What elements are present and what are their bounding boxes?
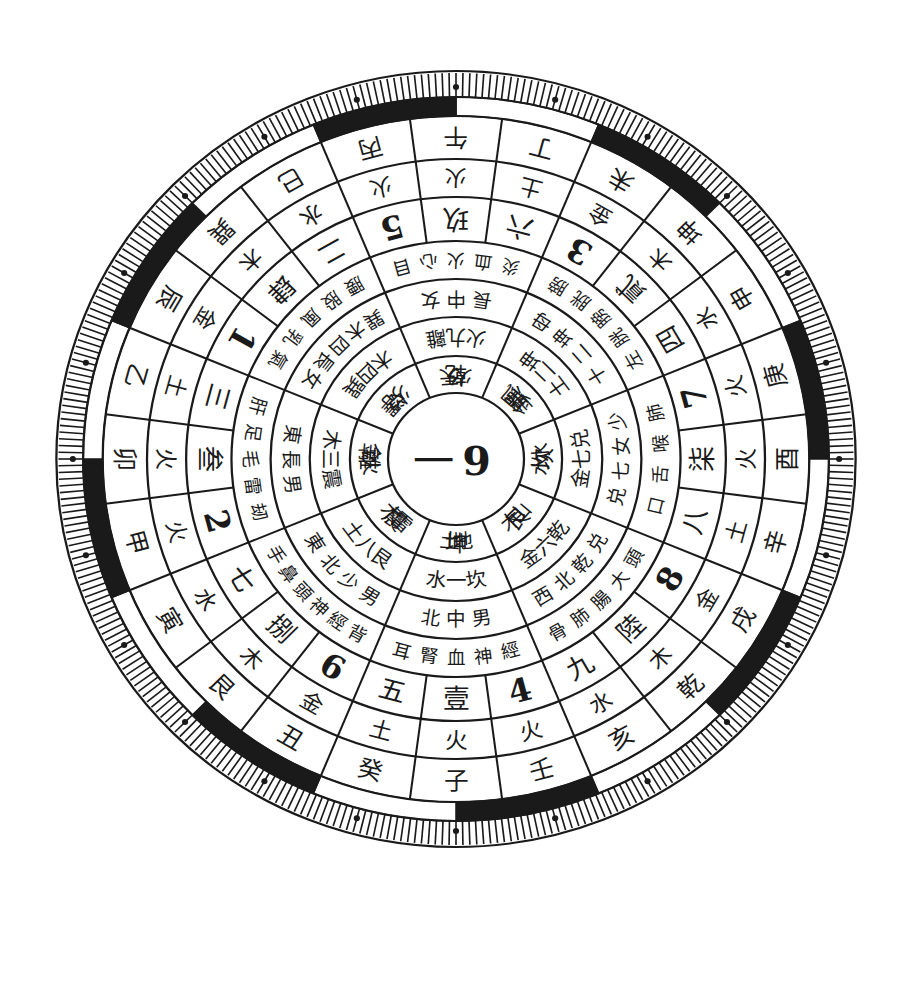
center-right-number: 9 (462, 437, 491, 484)
ring-glyph: 膀 (544, 273, 570, 300)
ring-glyph: 金 (188, 303, 222, 335)
ring-glyph: 腰 (341, 273, 367, 300)
ring-glyph: 水 (584, 686, 617, 719)
ring-glyph: 九 (561, 648, 599, 686)
ring-glyph: 4 (504, 670, 536, 712)
ring-glyph: 血 (473, 250, 494, 273)
ring-glyph: 金 (584, 199, 617, 232)
ring-glyph: 火 (464, 325, 488, 351)
ring-glyph: 乾 (671, 668, 709, 705)
ring-glyph: 金 (295, 686, 328, 719)
ring-glyph: 足 (241, 422, 265, 442)
ring-glyph: 離 (356, 448, 382, 470)
ring-glyph: 酉 (772, 447, 801, 471)
ring-glyph: 坤 (445, 531, 467, 557)
ring-glyph: 神 (473, 645, 494, 668)
ring-glyph: 木 (234, 641, 268, 674)
ring-glyph: 膀 (587, 305, 615, 332)
ring-glyph: 四 (650, 321, 690, 358)
ring-glyph: 男 (471, 605, 494, 630)
ring-glyph: 坤 (549, 322, 579, 351)
ring-glyph: 男 (279, 473, 305, 495)
ring-glyph: 長 (279, 450, 302, 469)
ring-glyph: 火 (153, 448, 179, 470)
ring-glyph: 申 (724, 281, 762, 316)
ring-glyph: 二 (567, 340, 597, 369)
ring-glyph: 貳 (611, 270, 651, 309)
ring-glyph: 甲 (119, 527, 154, 557)
ring-glyph: 未 (604, 162, 640, 199)
ring-glyph: 目 (390, 255, 413, 280)
ring-glyph: 木 (318, 428, 345, 451)
ring-glyph: 辛 (758, 527, 793, 557)
ring-glyph: 肺 (567, 604, 594, 631)
ring-glyph: 巽 (203, 213, 241, 250)
ring-glyph: 7 (673, 381, 716, 412)
ring-glyph: 土 (720, 518, 751, 546)
ring-glyph: 少 (604, 410, 631, 433)
ring-glyph: 乾 (445, 362, 467, 388)
ring-glyph: 一 (446, 570, 466, 594)
ring-glyph: 震 (318, 467, 345, 490)
ring-glyph: 木 (643, 244, 677, 277)
ring-glyph: 東 (300, 529, 330, 557)
ring-glyph: 坤 (671, 213, 709, 250)
ring-glyph: 兑 (604, 485, 631, 508)
ring-glyph: 七 (609, 461, 634, 481)
ring-glyph: 骨 (544, 618, 570, 645)
ring-glyph: 5 (376, 206, 408, 248)
ring-glyph: 戌 (724, 602, 762, 637)
ring-glyph: 火 (720, 372, 751, 400)
ring-glyph: 乳 (279, 325, 307, 352)
ring-glyph: 舌 (649, 465, 672, 484)
ring-glyph: 心 (418, 250, 439, 273)
ring-glyph: 離 (424, 325, 448, 351)
ring-glyph: 雷 (241, 475, 265, 495)
ring-glyph: 九 (446, 325, 466, 349)
ring-glyph: 母 (528, 307, 557, 336)
ring-glyph: 火 (367, 172, 395, 202)
ring-glyph: 玖 (443, 204, 469, 234)
ring-glyph: 六 (503, 210, 536, 245)
ring-glyph: 火 (517, 715, 545, 745)
ring-glyph: 中 (446, 287, 465, 310)
ring-glyph: 北 (315, 549, 345, 578)
ring-glyph: 丙 (355, 132, 386, 166)
ring-glyph: 火 (445, 165, 467, 191)
ring-glyph: 丑 (273, 719, 309, 756)
ring-glyph: 血 (447, 648, 465, 669)
ring-glyph: 木 (234, 244, 268, 277)
ring-glyph: 三 (318, 449, 342, 469)
ring-glyph: 左 (620, 347, 648, 373)
ring-glyph: 腎 (418, 645, 439, 668)
ring-glyph: 火 (447, 250, 465, 271)
ring-glyph: 水 (188, 584, 222, 616)
ring-glyph: 中 (446, 609, 465, 632)
ring-glyph: 1 (219, 320, 264, 358)
ring-glyph: 艮 (203, 668, 241, 705)
ring-glyph: 肺 (643, 402, 668, 424)
ring-glyph: 柒 (688, 446, 718, 472)
ring-glyph: 經 (498, 639, 521, 664)
ring-glyph: 寅 (150, 602, 188, 637)
ring-glyph: 七 (570, 449, 594, 469)
ring-glyph: 東 (279, 423, 305, 445)
ring-glyph: 叁 (194, 446, 224, 472)
ring-glyph: 股 (318, 287, 345, 314)
ring-glyph: 長 (471, 287, 494, 312)
ring-glyph: 捌 (261, 609, 301, 648)
ring-glyph: 木 (643, 641, 677, 674)
ring-glyph: 土 (517, 172, 545, 202)
ring-glyph: 北 (549, 567, 579, 596)
ring-glyph: 喉 (649, 434, 672, 453)
ring-glyph: 子 (444, 766, 468, 795)
ring-glyph: 火 (161, 518, 192, 546)
ring-glyph: 胱 (567, 287, 594, 314)
ring-glyph: 二 (313, 232, 351, 270)
ring-glyph: 水 (690, 303, 724, 335)
ring-glyph: 金 (567, 467, 594, 490)
ring-glyph: 乙 (119, 361, 154, 391)
ring-glyph: 午 (444, 123, 468, 152)
ring-glyph: 土 (161, 372, 192, 400)
ring-glyph: 卯 (110, 447, 139, 471)
